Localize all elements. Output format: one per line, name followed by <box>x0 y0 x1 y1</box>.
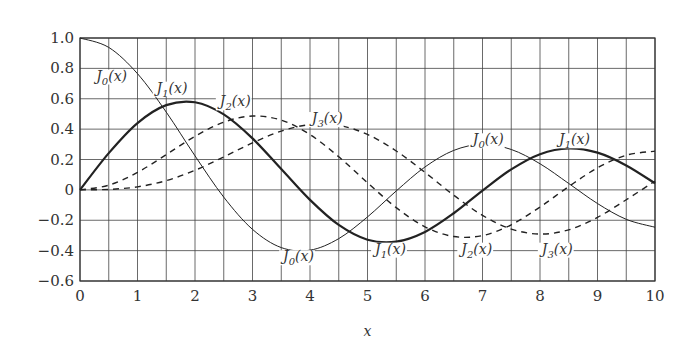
y-tick: 0.2 <box>50 151 74 169</box>
y-tick: 0 <box>64 181 74 199</box>
x-axis-label: x <box>364 323 372 339</box>
y-tick: −0.2 <box>38 211 74 229</box>
y-tick: 0.6 <box>50 90 74 108</box>
y-tick: 1.0 <box>50 29 74 47</box>
x-tick: 5 <box>363 287 373 305</box>
x-tick: 4 <box>305 287 315 305</box>
y-tick: 0.8 <box>50 59 74 77</box>
x-tick: 7 <box>478 287 488 305</box>
x-tick: 1 <box>133 287 143 305</box>
x-tick: 6 <box>420 287 430 305</box>
y-tick: −0.6 <box>38 272 74 290</box>
x-tick: 10 <box>645 287 664 305</box>
y-tick: −0.4 <box>38 242 74 260</box>
bessel-chart: 1.00.80.60.40.20−0.2−0.4−0.6012345678910… <box>0 0 698 348</box>
x-tick: 0 <box>75 287 85 305</box>
x-tick: 9 <box>593 287 603 305</box>
x-tick: 3 <box>248 287 258 305</box>
x-tick: 2 <box>190 287 200 305</box>
y-tick: 0.4 <box>50 120 74 138</box>
x-tick: 8 <box>535 287 545 305</box>
